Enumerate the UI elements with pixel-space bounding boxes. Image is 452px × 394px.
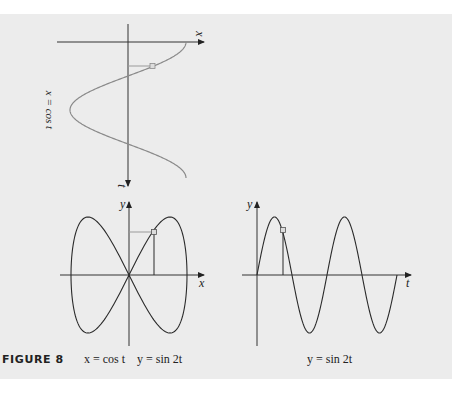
bl-y-label: y (119, 197, 126, 211)
figure-number: FIGURE 8 (2, 353, 64, 366)
bottom-right-plot-sine: y t (242, 197, 411, 346)
br-y-label: y (246, 197, 253, 211)
top-x-label: x (193, 30, 207, 37)
top-curve-label: x = cos t (44, 90, 56, 130)
caption-left: x = cos t y = sin 2t (84, 352, 182, 367)
top-t-label: t (115, 184, 129, 188)
bl-marker (152, 230, 157, 235)
bl-x-label: x (198, 276, 205, 290)
caption-right: y = sin 2t (307, 352, 352, 367)
top-plot-cos: x t x = cos t (44, 24, 207, 188)
br-t-label: t (406, 276, 410, 290)
bottom-left-plot-lissajous: y x (60, 197, 205, 346)
top-marker (150, 64, 155, 69)
br-marker (281, 228, 286, 233)
figure-graphics: x t x = cos t y x y t (0, 0, 452, 394)
